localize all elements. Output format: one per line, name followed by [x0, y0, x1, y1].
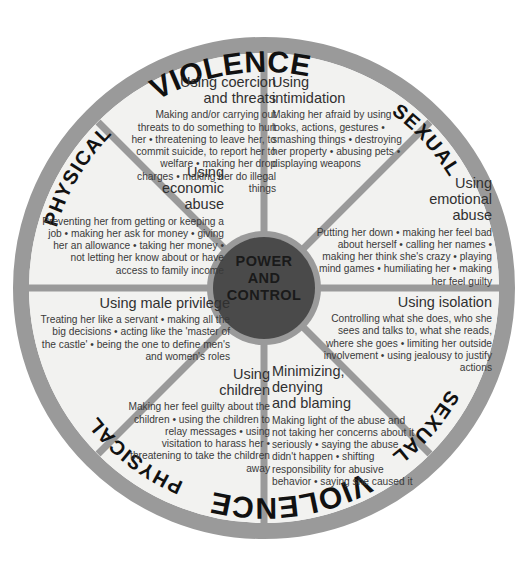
segment-body: Preventing her from getting or keeping a…: [42, 216, 224, 277]
segment-using-children: Using children Making her feel guilty ab…: [128, 366, 270, 475]
segment-using-male-privilege: Using male privilege Treating her like a…: [38, 295, 230, 363]
power-and-control-wheel: PHYSICAL VIOLENCE SEXUAL PHYSICAL VIOLEN…: [0, 0, 530, 575]
segment-body: Making light of the abuse and not taking…: [272, 415, 422, 488]
segment-using-emotional-abuse: Using emotional abuse Putting her down •…: [306, 175, 492, 288]
segment-using-intimidation: Using intimidation Making her afraid by …: [272, 74, 412, 171]
segment-body: Putting her down • making her feel bad a…: [306, 227, 492, 288]
segment-using-economic-abuse: Using economic abuse Preventing her from…: [42, 164, 224, 277]
segment-heading: Minimizing, denying and blaming: [272, 363, 422, 412]
segment-heading: Using male privilege: [38, 295, 230, 311]
segment-heading: Using isolation: [312, 294, 492, 310]
segment-body: Treating her like a servant • making all…: [38, 314, 230, 363]
segment-heading: Using economic abuse: [42, 164, 224, 213]
segment-heading: Using intimidation: [272, 74, 412, 106]
segment-heading: Using coercion and threats: [128, 74, 276, 106]
segment-minimizing-denying-and-blaming: Minimizing, denying and blaming Making l…: [272, 363, 422, 488]
segment-body: Making her feel guilty about the childre…: [128, 401, 270, 474]
segment-heading: Using emotional abuse: [306, 175, 492, 224]
segment-body: Making her afraid by using looks, action…: [272, 109, 412, 170]
segment-heading: Using children: [128, 366, 270, 398]
